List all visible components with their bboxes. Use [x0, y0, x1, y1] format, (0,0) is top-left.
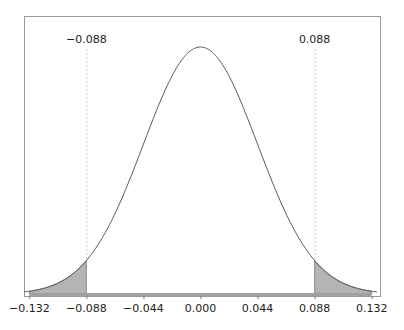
critical-value-label: −0.088	[66, 33, 107, 46]
x-axis-tick-labels: −0.132−0.088−0.0440.0000.0440.0880.132	[9, 302, 388, 315]
x-tick-label: 0.044	[242, 302, 274, 315]
normal-distribution-chart: −0.132−0.088−0.0440.0000.0440.0880.132 −…	[0, 0, 404, 330]
x-tick-label: 0.088	[299, 302, 331, 315]
baseline-band	[29, 293, 371, 296]
x-tick-label: −0.088	[66, 302, 107, 315]
density-curve	[24, 47, 377, 292]
shaded-tail	[315, 261, 372, 294]
critical-value-label: 0.088	[299, 33, 331, 46]
x-tick-label: 0.132	[356, 302, 388, 315]
plot-frame	[25, 17, 381, 297]
rejection-regions	[29, 261, 371, 294]
x-tick-label: 0.000	[185, 302, 217, 315]
critical-value-labels: −0.0880.088	[66, 33, 330, 46]
critical-value-lines	[87, 49, 315, 261]
shaded-tail	[29, 261, 86, 294]
x-tick-label: −0.132	[9, 302, 50, 315]
x-tick-label: −0.044	[123, 302, 164, 315]
